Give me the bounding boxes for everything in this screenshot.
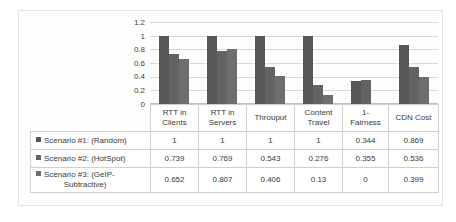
cell-s3-rtt-in-clients: 0.652 <box>151 168 199 193</box>
bar-series-3-throuput <box>275 76 285 104</box>
cell-s2-content-travel: 0.276 <box>295 150 343 168</box>
legend-label-line-1: Scenario #3: (GeIP- <box>44 170 115 180</box>
header-line-1: CDN Cost <box>395 113 431 122</box>
column-header-rtt-in-clients: RTT in Clients <box>151 105 199 132</box>
y-tick-0.2: 0.2 <box>134 86 145 95</box>
plot-area <box>150 22 438 104</box>
bar-group-rtt-in-servers <box>198 22 246 104</box>
legend-label: Scenario #2: (HotSpot) <box>44 154 125 164</box>
column-header-throuput: Throuput <box>247 105 295 132</box>
column-header-1-fairness: 1- Fairness <box>343 105 389 132</box>
data-table: RTT in Clients RTT in Servers Throuput C… <box>30 104 439 193</box>
bar-series-1-rtt-in-servers <box>207 36 217 104</box>
table-row: Scenario #1: (Random) 1 1 1 1 0.344 0.86… <box>31 132 439 150</box>
cell-s2-1-fairness: 0.355 <box>343 150 389 168</box>
bar-group-rtt-in-clients <box>150 22 198 104</box>
legend-label-wrapper: Scenario #3: (GeIP- <box>36 170 148 180</box>
bar-series-2-rtt-in-servers <box>217 51 227 104</box>
cell-s3-throuput: 0.406 <box>247 168 295 193</box>
cell-s2-cdn-cost: 0.536 <box>389 150 439 168</box>
chart-screenshot: 1.2 1 0.8 0.6 0.4 0.2 0 <box>0 0 456 222</box>
header-line-1: RTT in <box>163 108 187 117</box>
bar-series-2-content-travel <box>313 85 323 104</box>
y-tick-1.2: 1.2 <box>134 18 145 27</box>
legend-swatch-icon <box>36 171 41 176</box>
y-tick-0.6: 0.6 <box>134 59 145 68</box>
bar-series-2-1-fairness <box>361 80 371 104</box>
cell-s2-rtt-in-clients: 0.739 <box>151 150 199 168</box>
header-line-2: Travel <box>308 118 330 127</box>
bar-series-2-throuput <box>265 67 275 104</box>
legend-item-scenario-3[interactable]: Scenario #3: (GeIP- Subtractive) <box>31 168 151 193</box>
column-header-content-travel: Content Travel <box>295 105 343 132</box>
bar-group-1-fairness <box>342 22 390 104</box>
bar-series-3-rtt-in-clients <box>179 59 189 104</box>
column-header-cdn-cost: CDN Cost <box>389 105 439 132</box>
header-line-2: Fairness <box>350 118 381 127</box>
cell-s3-content-travel: 0.13 <box>295 168 343 193</box>
header-line-1: Content <box>304 108 332 117</box>
cell-s1-throuput: 1 <box>247 132 295 150</box>
table-row: Scenario #2: (HotSpot) 0.739 0.769 0.543… <box>31 150 439 168</box>
bar-series-1-throuput <box>255 36 265 104</box>
table-header-row: RTT in Clients RTT in Servers Throuput C… <box>31 105 439 132</box>
header-line-1: 1- <box>362 108 369 117</box>
cell-s3-cdn-cost: 0.399 <box>389 168 439 193</box>
legend-label-line-2: Subtractive) <box>36 180 148 190</box>
header-spacer-cell <box>31 105 151 132</box>
cell-s1-1-fairness: 0.344 <box>343 132 389 150</box>
legend-item-scenario-2[interactable]: Scenario #2: (HotSpot) <box>31 150 151 168</box>
bar-group-cdn-cost <box>390 22 438 104</box>
legend-swatch-icon <box>36 155 41 160</box>
cell-s1-content-travel: 1 <box>295 132 343 150</box>
bar-group-throuput <box>246 22 294 104</box>
cell-s1-rtt-in-servers: 1 <box>199 132 247 150</box>
header-line-2: Clients <box>162 118 186 127</box>
bar-series-3-cdn-cost <box>419 77 429 104</box>
y-tick-1: 1 <box>141 32 145 41</box>
cell-s3-1-fairness: 0 <box>343 168 389 193</box>
legend-swatch-icon <box>36 137 41 142</box>
header-line-1: Throuput <box>254 113 286 122</box>
cell-s1-cdn-cost: 0.869 <box>389 132 439 150</box>
header-line-2: Servers <box>209 118 237 127</box>
bar-group-content-travel <box>294 22 342 104</box>
bar-groups <box>150 22 438 104</box>
bar-series-3-content-travel <box>323 95 333 104</box>
bar-series-1-cdn-cost <box>399 45 409 104</box>
bar-series-2-cdn-cost <box>409 67 419 104</box>
cell-s3-rtt-in-servers: 0.807 <box>199 168 247 193</box>
legend-label: Scenario #1: (Random) <box>44 136 127 146</box>
cell-s2-throuput: 0.543 <box>247 150 295 168</box>
bar-series-1-1-fairness <box>351 81 361 105</box>
bar-series-1-content-travel <box>303 36 313 104</box>
bar-series-2-rtt-in-clients <box>169 54 179 104</box>
y-tick-0.4: 0.4 <box>134 72 145 81</box>
y-tick-0.8: 0.8 <box>134 45 145 54</box>
cell-s2-rtt-in-servers: 0.769 <box>199 150 247 168</box>
bar-series-3-rtt-in-servers <box>227 49 237 104</box>
bar-series-1-rtt-in-clients <box>159 36 169 104</box>
header-line-1: RTT in <box>211 108 235 117</box>
legend-item-scenario-1[interactable]: Scenario #1: (Random) <box>31 132 151 150</box>
y-axis-labels: 1.2 1 0.8 0.6 0.4 0.2 0 <box>118 14 148 112</box>
column-header-rtt-in-servers: RTT in Servers <box>199 105 247 132</box>
table-row: Scenario #3: (GeIP- Subtractive) 0.652 0… <box>31 168 439 193</box>
cell-s1-rtt-in-clients: 1 <box>151 132 199 150</box>
